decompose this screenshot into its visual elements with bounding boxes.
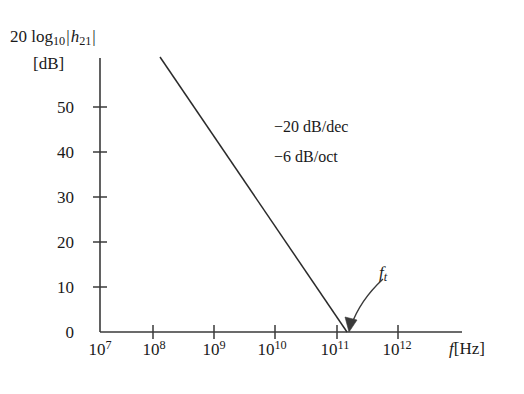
ft-arrow-head-icon: [345, 317, 357, 332]
gain-asymptote-line: [160, 57, 347, 332]
ft-arrow-shaft: [351, 279, 383, 326]
plot-canvas: [0, 0, 524, 394]
bode-plot-figure: 20 log10|h21| [dB] 50 40 30 20 10 0 107 …: [0, 0, 524, 394]
